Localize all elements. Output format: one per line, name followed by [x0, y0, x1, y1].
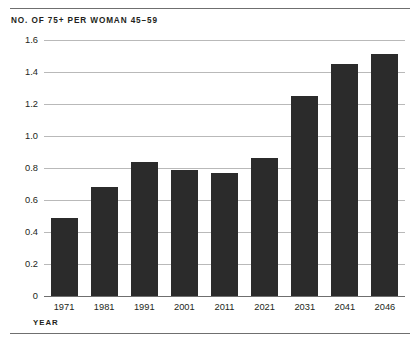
chart-title: NO. OF 75+ PER WOMAN 45–59: [11, 16, 158, 25]
x-axis-tick-label: 2011: [208, 302, 241, 312]
y-axis-tick-label: 1.0: [25, 131, 38, 141]
bottom-divider-rule: [10, 333, 410, 334]
x-axis-title: YEAR: [33, 318, 59, 327]
x-axis-tick-label: 1991: [128, 302, 161, 312]
y-axis-tick-label: 0.6: [25, 195, 38, 205]
bar: [371, 54, 398, 296]
y-axis-tick-label: 1.6: [25, 35, 38, 45]
top-divider-rule: [10, 8, 410, 9]
x-axis-baseline: [44, 296, 405, 297]
y-axis-tick-label: 1.4: [25, 67, 38, 77]
y-axis-tick-label: 0: [33, 291, 38, 301]
bar: [51, 218, 78, 296]
y-axis-tick-label: 0.4: [25, 227, 38, 237]
x-axis-tick-label: 2031: [288, 302, 321, 312]
x-axis-tick-label: 2021: [248, 302, 281, 312]
bar: [131, 162, 158, 296]
bar-series: [44, 40, 405, 296]
x-axis-tick-label: 2046: [368, 302, 401, 312]
plot-area: 00.20.40.60.81.01.21.41.6: [44, 40, 405, 296]
x-axis-tick-label: 2041: [328, 302, 361, 312]
bar: [171, 170, 198, 296]
bar: [291, 96, 318, 296]
bar: [251, 158, 278, 296]
x-axis-tick-label: 1971: [48, 302, 81, 312]
y-axis-tick-label: 0.8: [25, 163, 38, 173]
bar: [211, 173, 238, 296]
x-axis-tick-label: 2001: [168, 302, 201, 312]
bar: [331, 64, 358, 296]
y-axis-tick-label: 1.2: [25, 99, 38, 109]
x-axis-tick-labels: 197119811991200120112021203120412046: [44, 302, 405, 316]
x-axis-tick-label: 1981: [88, 302, 121, 312]
bar: [91, 187, 118, 296]
y-axis-tick-label: 0.2: [25, 259, 38, 269]
chart-figure: NO. OF 75+ PER WOMAN 45–59 00.20.40.60.8…: [0, 0, 420, 342]
